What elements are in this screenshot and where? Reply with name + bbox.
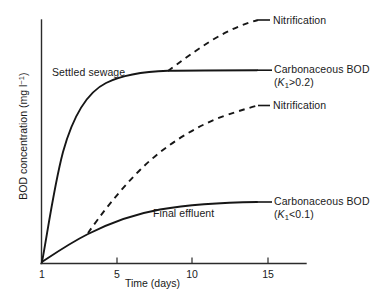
curve-settled-sewage xyxy=(42,70,257,262)
curve-nitrification-settled-sewage xyxy=(168,20,258,71)
carbonaceous-bod-low-k-coefficient: (K1<0.1) xyxy=(274,208,370,222)
x-tick-label-15: 15 xyxy=(255,268,281,280)
chart-canvas xyxy=(0,0,390,300)
bod-curve-figure: BOD concentration (mg l−1) Time (days) 1… xyxy=(0,0,390,300)
x-tick-label-5: 5 xyxy=(104,268,130,280)
annotation-carbonaceous-bod-high-k: Carbonaceous BOD (K1>0.2) xyxy=(274,63,370,90)
carbonaceous-bod-high-k-coefficient: (K1>0.2) xyxy=(274,76,370,90)
curve-final-effluent xyxy=(42,202,257,262)
y-axis-label-exponent: −1 xyxy=(17,76,26,85)
annotation-nitrification-mid: Nitrification xyxy=(273,99,326,112)
y-axis-label-close: ) xyxy=(17,73,29,77)
x-tick-label-1: 1 xyxy=(29,268,55,280)
k-symbol-low: K xyxy=(278,208,285,220)
k-relation-low: <0.1) xyxy=(289,208,314,220)
carbonaceous-bod-low-k-title: Carbonaceous BOD xyxy=(274,195,370,207)
x-tick-label-10: 10 xyxy=(179,268,205,280)
annotation-nitrification-top: Nitrification xyxy=(273,14,326,27)
x-axis-label: Time (days) xyxy=(125,277,180,289)
annotation-final-effluent: Final effluent xyxy=(153,207,214,220)
annotation-carbonaceous-bod-low-k: Carbonaceous BOD (K1<0.1) xyxy=(274,195,370,222)
k-symbol-high: K xyxy=(278,76,285,88)
carbonaceous-bod-high-k-title: Carbonaceous BOD xyxy=(274,63,370,75)
y-axis-label: BOD concentration (mg l−1) xyxy=(17,36,29,236)
annotation-settled-sewage: Settled sewage xyxy=(52,66,125,79)
y-axis-label-text: BOD concentration (mg l xyxy=(17,85,29,200)
k-relation-high: >0.2) xyxy=(289,76,314,88)
